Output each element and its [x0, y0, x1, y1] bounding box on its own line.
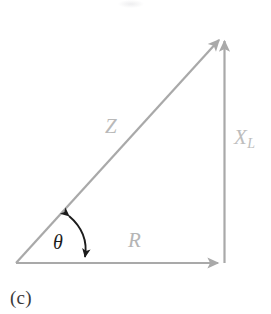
label-angle-theta: θ: [53, 232, 63, 252]
angle-theta-arc: [69, 216, 86, 257]
label-reactance-xl: XL: [234, 127, 255, 151]
label-resistance-r: R: [128, 230, 141, 251]
label-reactance-xl-base: X: [234, 125, 247, 149]
label-reactance-xl-subscript: L: [247, 136, 255, 151]
label-impedance-z: Z: [105, 116, 117, 137]
vector-z-arrow: [16, 40, 219, 263]
figure-container: Z XL R θ (c): [0, 0, 271, 314]
impedance-triangle-graphic: [0, 0, 271, 314]
figure-caption: (c): [10, 287, 32, 309]
